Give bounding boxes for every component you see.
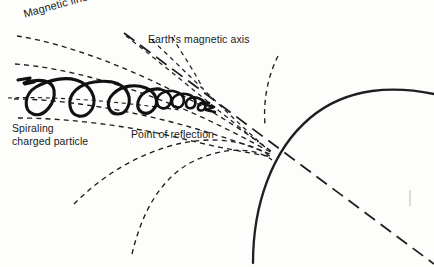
earth-surface-arc [253,90,434,263]
particle-helix-path [24,79,160,117]
label-spiraling-charged-particle: Spiralingcharged particle [12,122,88,147]
field-line-6 [132,150,272,254]
particle-helix-path-tight [157,89,209,111]
label-spiraling-line2: charged particle [12,135,88,147]
field-line-right-of-axis [265,56,278,125]
magnetic-field-diagram: .dash { fill:none; stroke:#1f1f1f; strok… [0,0,434,267]
label-earths-magnetic-axis: Earth's magnetic axis [148,33,250,46]
field-line-5 [74,140,272,204]
earths-magnetic-axis-line [124,33,434,264]
label-spiraling-line1: Spiraling [12,122,54,134]
label-point-of-reflection: Point of reflection [131,128,214,141]
